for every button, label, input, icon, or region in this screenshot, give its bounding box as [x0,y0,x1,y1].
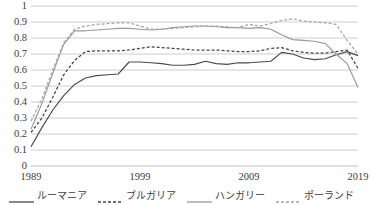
x-tick-label: 1999 [120,172,160,183]
series-line-1 [31,47,358,133]
y-tick-label: 1 [22,1,27,12]
legend-swatch-dashed [276,192,301,200]
y-tick-label: 0.6 [14,65,27,76]
x-tick-label: 2009 [229,172,269,183]
y-tick-label: 0.8 [14,33,27,44]
legend-label: ポーランド [304,191,354,201]
legend-swatch-solid [9,192,34,200]
legend-item[interactable]: ポーランド [276,191,354,201]
legend-label: ルーマニア [37,191,87,201]
y-tick-label: 0.4 [14,97,27,108]
chart-legend: ルーマニアブルガリアハンガリーポーランド [0,186,363,205]
x-tick-label: 1989 [11,172,51,183]
y-tick-label: 0.1 [14,145,27,156]
series-line-0 [31,52,358,147]
y-tick-label: 0.9 [14,17,27,28]
legend-swatch-solid [187,192,212,200]
legend-item[interactable]: ハンガリー [187,191,265,201]
legend-item[interactable]: ルーマニア [9,191,87,201]
legend-item[interactable]: ブルガリア [98,191,176,201]
y-tick-label: 0.7 [14,49,27,60]
series-line-2 [31,26,358,129]
y-tick-label: 0 [22,161,27,172]
legend-swatch-dashed [98,192,123,200]
x-tick-label: 2019 [338,172,373,183]
legend-label: ハンガリー [215,191,265,201]
y-tick-label: 0.3 [14,113,27,124]
legend-label: ブルガリア [126,191,176,201]
y-tick-label: 0.2 [14,129,27,140]
y-tick-label: 0.5 [14,81,27,92]
gridlines [31,6,358,166]
